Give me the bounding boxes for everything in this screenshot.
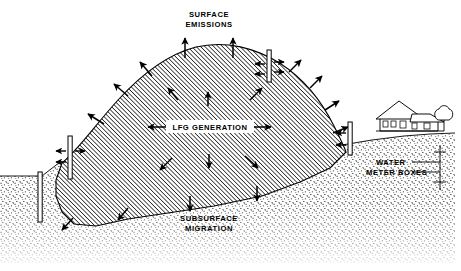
tree-canopy bbox=[435, 106, 453, 120]
water-meter-line1: WATER bbox=[376, 158, 406, 167]
house bbox=[376, 101, 444, 131]
water-meter-line2: METER BOXES bbox=[366, 168, 427, 177]
emission-arrow-flank-r2 bbox=[310, 76, 322, 88]
probe-casing bbox=[38, 172, 42, 222]
emission-arrow-flank-r3 bbox=[325, 101, 339, 110]
house-window-4 bbox=[424, 123, 430, 129]
probe-casing bbox=[267, 50, 271, 82]
subsurface-migration-line1: SUBSURFACE bbox=[180, 214, 238, 223]
emission-arrow-flank-l2 bbox=[114, 84, 128, 96]
lfg-migration-diagram: SURFACE EMISSIONS LFG GENERATION SUBSURF… bbox=[0, 0, 461, 271]
house-window-2 bbox=[391, 121, 396, 127]
label-subsurface-migration: SUBSURFACE MIGRATION bbox=[180, 214, 238, 233]
subsurface-migration-line2: MIGRATION bbox=[185, 224, 233, 233]
surface-emissions-line2: EMISSIONS bbox=[185, 20, 232, 29]
house-door bbox=[400, 121, 406, 128]
probe-casing bbox=[348, 122, 352, 155]
probe-left-lower[interactable] bbox=[38, 172, 42, 222]
label-surface-emissions: SURFACE EMISSIONS bbox=[185, 10, 232, 29]
house-window-3 bbox=[412, 123, 417, 129]
surface-emissions-line1: SURFACE bbox=[189, 10, 229, 19]
house-window-1 bbox=[383, 121, 388, 127]
probe-casing bbox=[68, 136, 72, 179]
lfg-generation-line1: LFG GENERATION bbox=[172, 123, 247, 132]
emission-arrow-flank-r1 bbox=[289, 60, 301, 72]
label-lfg-generation: LFG GENERATION bbox=[166, 120, 254, 133]
figure-root: SURFACE EMISSIONS LFG GENERATION SUBSURF… bbox=[0, 0, 461, 271]
